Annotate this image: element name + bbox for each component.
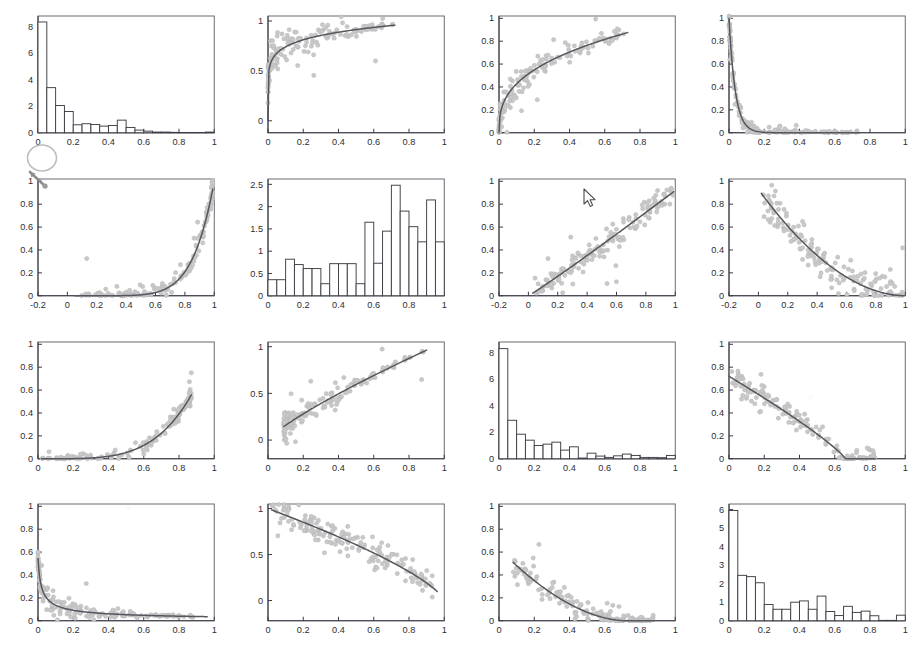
x-tick-label: 0.6 — [368, 625, 381, 635]
y-tick-label: 8 — [488, 347, 493, 357]
x-tick-label: 1 — [672, 137, 677, 147]
x-tick-label: 0.6 — [137, 462, 150, 472]
histogram-bars — [729, 511, 905, 621]
histogram-bars — [38, 22, 214, 133]
x-tick-label: 0.2 — [758, 137, 771, 147]
y-tick-label: 2 — [719, 579, 724, 589]
y-tick-label: 0.4 — [481, 82, 494, 92]
y-tick-label: 2.5 — [250, 179, 263, 189]
x-tick-label: 0 — [525, 300, 530, 310]
histogram-bar — [436, 242, 445, 296]
histogram-bar — [109, 125, 118, 132]
x-tick-label: 0.6 — [828, 462, 841, 472]
x-tick-label: 0.6 — [610, 300, 623, 310]
x-tick-label: 0.4 — [102, 625, 115, 635]
y-tick-label: 0.2 — [20, 593, 33, 603]
histogram-bar — [799, 601, 808, 621]
fitted-curve — [38, 559, 207, 617]
panel-p13: 00.20.40.60.8100.20.40.60.81 — [461, 0, 691, 163]
x-tick-label: 0.4 — [102, 462, 115, 472]
y-tick-label: 0 — [258, 596, 263, 606]
y-tick-label: 0.2 — [481, 105, 494, 115]
x-tick-label: 0.2 — [758, 462, 771, 472]
x-tick-label: 0.2 — [297, 300, 310, 310]
histogram-bar — [135, 130, 144, 133]
histogram-bar — [551, 442, 560, 459]
panel-p31: 00.20.40.60.8100.20.40.60.81 — [0, 326, 230, 489]
y-tick-label: 0.6 — [20, 385, 33, 395]
histogram-bar — [578, 458, 587, 459]
x-tick-label: 1 — [672, 462, 677, 472]
histogram-bar — [808, 610, 817, 621]
y-tick-label: 0.5 — [250, 388, 263, 398]
histogram-bar — [400, 211, 409, 296]
scatter-points — [36, 550, 195, 622]
y-tick-label: 6 — [488, 374, 493, 384]
histogram-bar — [826, 612, 835, 621]
y-tick-label: 0.8 — [711, 199, 724, 209]
y-tick-label: 4 — [719, 542, 724, 552]
histogram-bar — [365, 222, 374, 296]
histogram-bar — [126, 127, 135, 132]
scatter-points — [727, 14, 859, 135]
x-tick-label: 0.4 — [332, 300, 345, 310]
x-tick-label: 0.4 — [332, 462, 345, 472]
y-tick-label: 0 — [258, 291, 263, 301]
x-tick-label: -0.2 — [721, 300, 737, 310]
x-tick-label: 0.2 — [67, 462, 80, 472]
scatter-points — [270, 503, 434, 600]
x-tick-label: 0.6 — [598, 625, 611, 635]
scatter-points — [266, 15, 395, 105]
y-tick-label: 0.8 — [711, 36, 724, 46]
histogram-bar — [205, 132, 214, 133]
x-tick-label: 0 — [35, 137, 40, 147]
x-tick-label: 0 — [726, 462, 731, 472]
y-tick-label: 0.8 — [481, 199, 494, 209]
x-tick-label: 0.4 — [580, 300, 593, 310]
x-tick-label: 0.8 — [173, 462, 186, 472]
panel-p11: 00.20.40.60.8102468 — [0, 0, 230, 163]
x-tick-label: 0.8 — [178, 300, 191, 310]
x-tick-label: 1 — [442, 137, 447, 147]
panel-p34: 00.20.40.60.8100.20.40.60.81 — [691, 326, 921, 489]
x-tick-label: 0.6 — [149, 300, 162, 310]
histogram-bar — [392, 185, 401, 296]
x-tick-label: 0.4 — [793, 625, 806, 635]
y-tick-label: 2 — [258, 202, 263, 212]
y-tick-label: 0.2 — [711, 268, 724, 278]
scatter-points — [40, 370, 193, 460]
x-tick-label: 0.8 — [863, 625, 876, 635]
y-tick-label: 0 — [28, 128, 33, 138]
x-tick-label: 1 — [672, 300, 677, 310]
histogram-bar — [613, 455, 622, 458]
x-tick-label: 1 — [212, 462, 217, 472]
x-tick-label: 0.2 — [527, 462, 540, 472]
x-tick-label: 0.4 — [563, 137, 576, 147]
histogram-bar — [534, 445, 543, 458]
histogram-bar — [817, 596, 826, 621]
x-tick-label: 0.4 — [563, 625, 576, 635]
histogram-bar — [782, 610, 791, 621]
x-tick-label: 0.2 — [758, 625, 771, 635]
x-tick-label: 0.2 — [297, 625, 310, 635]
x-tick-label: 0.4 — [332, 625, 345, 635]
y-tick-label: 0.6 — [20, 548, 33, 558]
y-tick-label: 1 — [719, 339, 724, 349]
x-tick-label: 0 — [496, 625, 501, 635]
y-tick-label: 0.2 — [481, 593, 494, 603]
histogram-bar — [286, 259, 295, 296]
y-tick-label: 0.5 — [250, 550, 263, 560]
x-tick-label: 0 — [726, 625, 731, 635]
x-tick-label: 0.8 — [639, 300, 652, 310]
x-tick-label: 1 — [212, 137, 217, 147]
y-tick-label: 0.4 — [711, 408, 724, 418]
histogram-bar — [773, 610, 782, 621]
histogram-bar — [764, 605, 773, 621]
histogram-bar — [374, 263, 383, 296]
histogram-bar — [356, 283, 365, 295]
x-tick-label: 0 — [266, 300, 271, 310]
histogram-bar — [569, 446, 578, 458]
histogram-bar — [161, 132, 170, 133]
y-tick-label: 0.2 — [711, 431, 724, 441]
y-tick-label: 0.8 — [20, 362, 33, 372]
